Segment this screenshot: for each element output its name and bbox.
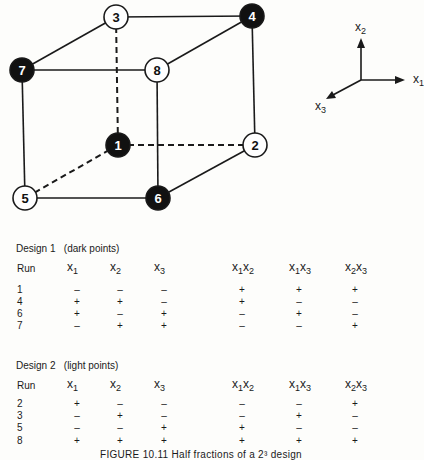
- sign-cell: +: [154, 320, 174, 331]
- column-header-x1x3: x1x3: [289, 377, 311, 391]
- sign-cell: +: [345, 435, 365, 446]
- arrow-right-icon: [395, 76, 405, 84]
- sign-cell: –: [67, 422, 87, 433]
- sign-cell: +: [345, 320, 365, 331]
- sign-cell: –: [110, 284, 130, 295]
- column-header-run: Run: [17, 380, 35, 391]
- column-header-x1x2: x1x2: [232, 377, 254, 391]
- sign-cell: +: [154, 435, 174, 446]
- cube-edge: [25, 145, 118, 198]
- axis-legend: [0, 0, 423, 120]
- sign-cell: +: [345, 284, 365, 295]
- cube-node-2: 2: [243, 133, 267, 157]
- svg-text:6: 6: [154, 191, 161, 206]
- sign-cell: –: [289, 320, 309, 331]
- axis-label-x2: x2: [355, 20, 366, 34]
- sign-cell: +: [110, 435, 130, 446]
- sign-cell: +: [289, 435, 309, 446]
- sign-cell: –: [154, 284, 174, 295]
- sign-cell: +: [289, 410, 309, 421]
- sign-cell: +: [232, 284, 252, 295]
- cube-node-1: 1: [106, 133, 130, 157]
- sign-cell: –: [110, 398, 130, 409]
- sign-cell: –: [67, 284, 87, 295]
- sign-cell: +: [67, 435, 87, 446]
- sign-cell: +: [289, 284, 309, 295]
- column-header-x3: x3: [154, 377, 165, 391]
- sign-cell: +: [232, 435, 252, 446]
- column-header-x3: x3: [154, 260, 165, 274]
- column-header-x1x2: x1x2: [232, 260, 254, 274]
- run-number: 5: [17, 422, 23, 433]
- run-number: 7: [17, 320, 23, 331]
- column-header-x1x3: x1x3: [289, 260, 311, 274]
- sign-cell: –: [345, 308, 365, 319]
- run-number: 3: [17, 410, 23, 421]
- run-number: 1: [17, 284, 23, 295]
- sign-cell: –: [154, 296, 174, 307]
- sign-cell: +: [67, 308, 87, 319]
- sign-cell: –: [154, 398, 174, 409]
- run-number: 4: [17, 296, 23, 307]
- sign-cell: +: [67, 296, 87, 307]
- sign-cell: –: [110, 422, 130, 433]
- sign-cell: –: [67, 320, 87, 331]
- sign-cell: +: [110, 410, 130, 421]
- sign-cell: +: [289, 308, 309, 319]
- sign-cell: –: [232, 320, 252, 331]
- axis-arrows: [331, 44, 398, 96]
- sign-cell: +: [232, 422, 252, 433]
- sign-cell: +: [110, 296, 130, 307]
- cube-node-6: 6: [146, 186, 170, 210]
- column-header-x2x3: x2x3: [345, 377, 367, 391]
- axis-label-x3: x3: [315, 99, 326, 113]
- sign-cell: +: [154, 422, 174, 433]
- design2-title: Design 2 (light points): [16, 360, 118, 371]
- sign-cell: –: [289, 398, 309, 409]
- svg-text:5: 5: [21, 191, 28, 206]
- sign-cell: –: [345, 410, 365, 421]
- column-header-x1: x1: [67, 260, 78, 274]
- sign-cell: +: [154, 308, 174, 319]
- arrow-up-icon: [357, 38, 365, 48]
- cube-edge: [158, 145, 255, 198]
- sign-cell: +: [67, 398, 87, 409]
- column-header-run: Run: [17, 263, 35, 274]
- sign-cell: +: [345, 398, 365, 409]
- sign-cell: –: [345, 296, 365, 307]
- run-number: 8: [17, 435, 23, 446]
- sign-cell: +: [232, 296, 252, 307]
- design1-title: Design 1 (dark points): [16, 243, 119, 254]
- sign-cell: –: [289, 422, 309, 433]
- column-header-x2: x2: [110, 377, 121, 391]
- svg-text:1: 1: [114, 138, 121, 153]
- svg-text:2: 2: [251, 138, 258, 153]
- sign-cell: +: [110, 320, 130, 331]
- sign-cell: –: [345, 422, 365, 433]
- cube-node-5: 5: [13, 186, 37, 210]
- sign-cell: –: [110, 308, 130, 319]
- column-header-x2x3: x2x3: [345, 260, 367, 274]
- figure-caption: FIGURE 10.11 Half fractions of a 2³ desi…: [100, 449, 302, 460]
- sign-cell: –: [232, 410, 252, 421]
- run-number: 6: [17, 308, 23, 319]
- sign-cell: –: [154, 410, 174, 421]
- axis-label-x1: x1: [413, 72, 424, 86]
- column-header-x1: x1: [67, 377, 78, 391]
- column-header-x2: x2: [110, 260, 121, 274]
- run-number: 2: [17, 398, 23, 409]
- sign-cell: –: [67, 410, 87, 421]
- sign-cell: –: [232, 308, 252, 319]
- sign-cell: –: [289, 296, 309, 307]
- sign-cell: –: [232, 398, 252, 409]
